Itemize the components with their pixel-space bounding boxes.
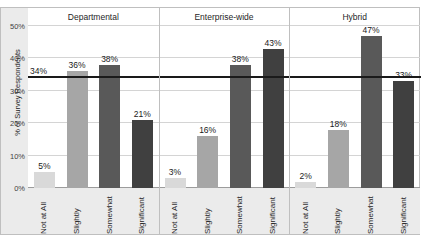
x-axis-label: Significant [268,197,277,234]
x-axis-label: Somewhat [235,196,244,234]
x-axis-label: Slightly [333,208,342,234]
bar-value-label: 38% [90,54,130,64]
bar [328,130,349,188]
bar-value-label: 5% [24,161,64,171]
x-axis-label: Slightly [72,208,81,234]
bar-value-label: 21% [122,109,162,119]
bar-value-label: 16% [188,125,228,135]
bar-value-label: 38% [220,54,260,64]
x-axis-label: Significant [399,197,408,234]
bar [361,36,382,188]
plot-area: 5%36%38%21%3%16%38%43%2%18%47%33%34% [28,26,420,188]
x-axis-label: Somewhat [366,196,375,234]
x-axis-label: Not at All [170,202,179,234]
y-tick-label: 10% [0,151,28,160]
y-tick-label: 30% [0,86,28,95]
bar [230,65,251,188]
bar-value-label: 2% [286,171,326,181]
bar [393,81,414,188]
reference-line-label: 34% [30,66,47,76]
x-axis-label: Somewhat [105,196,114,234]
y-tick-label: 50% [0,22,28,31]
group-separator [289,8,290,234]
bar [197,136,218,188]
bar [132,120,153,188]
bar [67,71,88,188]
group-header-departmental: Departmental [28,8,159,26]
bar [295,182,316,188]
bar [34,172,55,188]
bar [99,65,120,188]
group-header-enterprise-wide: Enterprise-wide [159,8,290,26]
bar-value-label: 43% [253,38,293,48]
bar-value-label: 18% [318,119,358,129]
bar-value-label: 3% [155,167,195,177]
x-axis-label: Slightly [203,208,212,234]
bar-value-label: 47% [351,25,391,35]
y-tick-label: 0% [0,184,28,193]
bar [263,49,284,188]
group-separator [159,8,160,234]
y-axis-ticks: 0%10%20%30%40%50% [0,0,28,236]
reference-line [28,76,421,78]
y-tick-label: 20% [0,119,28,128]
x-axis-label: Significant [137,197,146,234]
bar [165,178,186,188]
group-header-hybrid: Hybrid [289,8,420,26]
group-header-band: DepartmentalEnterprise-wideHybrid [28,8,420,26]
x-axis-label: Not at All [301,202,310,234]
grouped-bar-chart: % of Survey Respondents 0%10%20%30%40%50… [0,0,421,236]
y-tick-label: 40% [0,54,28,63]
x-axis-label: Not at All [39,202,48,234]
